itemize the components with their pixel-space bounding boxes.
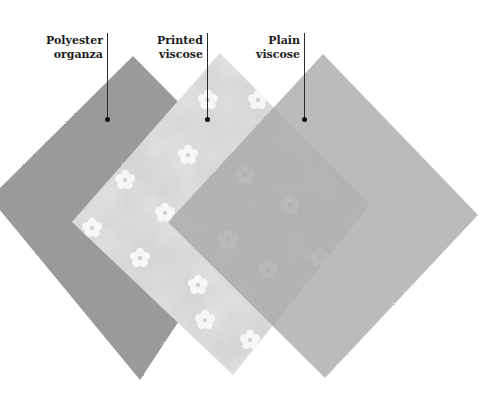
leader-line-plain-viscose bbox=[304, 33, 305, 119]
label-printed-viscose: Printed viscose bbox=[113, 34, 203, 62]
label-line-1: Printed bbox=[113, 34, 203, 48]
pointer-dot-plain-viscose bbox=[302, 117, 307, 122]
label-line-2: viscose bbox=[210, 48, 300, 62]
leader-line-printed-viscose bbox=[207, 33, 208, 119]
pointer-dot-printed-viscose bbox=[205, 117, 210, 122]
label-line-1: Polyester bbox=[13, 34, 103, 48]
swatch-diagram: Polyester organza Printed viscose Plain … bbox=[0, 0, 500, 398]
label-polyester-organza: Polyester organza bbox=[13, 34, 103, 62]
leader-line-polyester-organza bbox=[107, 33, 108, 119]
label-line-2: organza bbox=[13, 48, 103, 62]
label-line-1: Plain bbox=[210, 34, 300, 48]
pointer-dot-polyester-organza bbox=[105, 117, 110, 122]
label-line-2: viscose bbox=[113, 48, 203, 62]
label-plain-viscose: Plain viscose bbox=[210, 34, 300, 62]
